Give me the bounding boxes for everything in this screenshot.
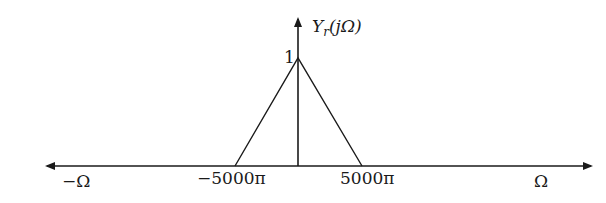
x-left-label: −Ω <box>62 171 90 191</box>
x-tick-pos-5000pi: 5000π <box>340 168 394 188</box>
peak-label: 1 <box>284 47 295 67</box>
y-axis-label: Yr(jΩ) <box>312 16 362 39</box>
x-tick-neg-5000pi: −5000π <box>197 168 266 188</box>
spectrum-diagram: Yr(jΩ) 1 −Ω −5000π 5000π Ω <box>0 0 606 203</box>
x-right-label: Ω <box>534 171 548 191</box>
